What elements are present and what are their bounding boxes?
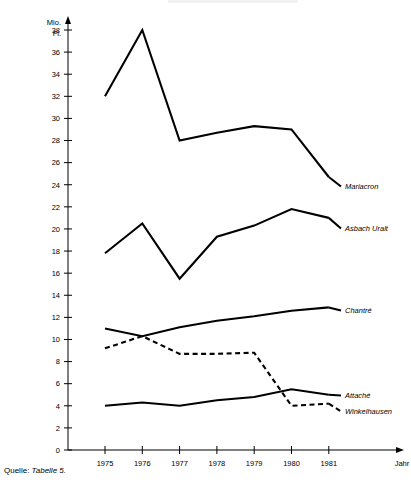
y-axis-tick-label: 26: [52, 158, 60, 167]
source-prefix: Quelle:: [4, 466, 29, 475]
series-leader-chantr-: [329, 307, 341, 310]
chart-canvas: 02468101214161820222426283032343638Mio.F…: [0, 0, 411, 488]
y-axis-title: Mio.: [47, 18, 61, 27]
y-axis-tick-label: 20: [52, 225, 60, 234]
series-label-asbach-uralt: Asbach Uralt: [344, 224, 389, 233]
series-leader-mariacron: [329, 177, 341, 187]
y-axis-tick-label: 18: [52, 247, 60, 256]
y-axis-tick-label: 30: [52, 114, 60, 123]
series-line-attach-: [105, 389, 329, 406]
y-axis-tick-label: 34: [52, 70, 60, 79]
source-note: Quelle: Tabelle 5.: [4, 466, 66, 475]
y-axis-tick-label: 16: [52, 269, 60, 278]
x-axis-tick-label: 1980: [283, 459, 300, 468]
series-label-attach-: Attaché: [344, 391, 370, 400]
y-axis-tick-label: 32: [52, 92, 60, 101]
y-axis-tick-label: 12: [52, 313, 60, 322]
x-axis-tick-label: 1979: [246, 459, 263, 468]
y-axis-title: Fl.: [53, 29, 61, 38]
y-axis-tick-label: 4: [56, 402, 60, 411]
series-line-chantr-: [105, 307, 329, 336]
y-axis-tick-label: 22: [52, 203, 60, 212]
line-chart: 02468101214161820222426283032343638Mio.F…: [0, 0, 411, 488]
x-axis-tick-label: 1977: [171, 459, 188, 468]
y-axis-tick-label: 10: [52, 335, 60, 344]
x-axis-tick-label: 1981: [320, 459, 337, 468]
series-label-mariacron: Mariacron: [345, 182, 378, 191]
x-axis-tick-label: 1975: [97, 459, 114, 468]
x-axis-title: Jahr: [395, 459, 410, 468]
x-axis-tick-label: 1976: [134, 459, 151, 468]
series-label-winkelhausen: Winkelhausen: [345, 407, 392, 416]
x-axis-tick-label: 1978: [209, 459, 226, 468]
series-leader-asbach-uralt: [329, 218, 341, 229]
y-axis-tick-label: 2: [56, 424, 60, 433]
series-line-winkelhausen: [105, 336, 329, 406]
y-axis-tick-label: 6: [56, 379, 60, 388]
x-axis-arrow-icon: [396, 447, 404, 453]
y-axis-tick-label: 28: [52, 136, 60, 145]
y-axis-tick-label: 36: [52, 48, 60, 57]
source-reference: Tabelle 5.: [32, 466, 66, 475]
y-axis-arrow-icon: [65, 16, 71, 24]
series-label-chantr-: Chantré: [345, 306, 372, 315]
series-line-asbach-uralt: [105, 209, 329, 279]
y-axis-tick-label: 24: [52, 181, 60, 190]
series-leader-winkelhausen: [329, 404, 341, 412]
y-axis-tick-label: 14: [52, 291, 60, 300]
series-line-mariacron: [105, 30, 329, 177]
y-axis-tick-label: 0: [56, 446, 60, 455]
series-leader-attach-: [329, 395, 341, 396]
y-axis-tick-label: 8: [56, 357, 60, 366]
